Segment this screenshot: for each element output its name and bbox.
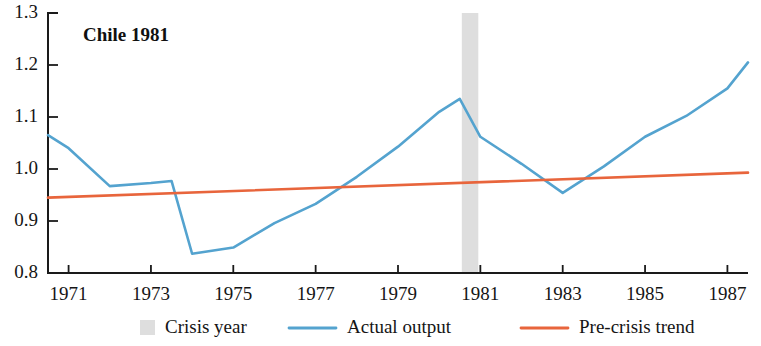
x-tick-label: 1985	[626, 283, 664, 304]
chart-title: Chile 1981	[83, 24, 169, 45]
y-tick-label: 0.8	[14, 261, 38, 282]
y-tick-label: 1.3	[14, 1, 38, 22]
x-tick-label: 1977	[297, 283, 335, 304]
x-axis-ticks: 197119731975197719791981198319851987	[50, 265, 747, 304]
chart-axes	[48, 13, 748, 273]
y-axis-spine	[48, 13, 58, 273]
x-tick-label: 1983	[544, 283, 582, 304]
x-tick-label: 1971	[50, 283, 88, 304]
y-tick-label: 1.2	[14, 53, 38, 74]
series-line-pre-crisis-trend	[48, 173, 748, 198]
legend-label-crisis-year: Crisis year	[165, 316, 247, 337]
y-tick-label: 0.9	[14, 209, 38, 230]
crisis-year-band	[462, 13, 478, 273]
legend-swatch-crisis-year	[140, 320, 155, 335]
line-chart: 1.31.21.11.00.90.8 197119731975197719791…	[0, 0, 761, 346]
y-tick-label: 1.0	[14, 157, 38, 178]
chart-series	[48, 62, 748, 253]
x-tick-label: 1975	[214, 283, 252, 304]
series-line-actual-output	[48, 62, 748, 253]
x-tick-label: 1987	[708, 283, 746, 304]
y-axis-ticks: 1.31.21.11.00.90.8	[14, 1, 58, 282]
x-tick-label: 1979	[379, 283, 417, 304]
legend-label-pre-crisis-trend: Pre-crisis trend	[579, 316, 695, 337]
x-tick-label: 1973	[132, 283, 170, 304]
chart-figure: 1.31.21.11.00.90.8 197119731975197719791…	[0, 0, 761, 346]
crisis-year-rect	[462, 13, 478, 273]
legend-label-actual-output: Actual output	[347, 316, 452, 337]
y-tick-label: 1.1	[14, 105, 38, 126]
x-tick-label: 1981	[461, 283, 499, 304]
chart-legend: Crisis yearActual outputPre-crisis trend	[140, 316, 695, 337]
